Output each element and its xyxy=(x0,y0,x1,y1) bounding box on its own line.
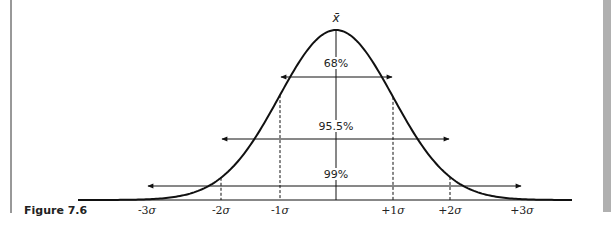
normal-distribution-diagram: 68% 95.5% 99% x̄ -3σ -2σ -1σ +1σ +2σ +3σ… xyxy=(0,0,615,228)
interval-label-68: 68% xyxy=(324,57,348,70)
tick-label-plus-2-sigma: +2σ xyxy=(438,204,462,217)
mean-label: x̄ xyxy=(331,11,340,25)
tick-label-minus-3-sigma: -3σ xyxy=(138,204,157,217)
interval-label-95: 95.5% xyxy=(319,120,354,133)
tick-label-minus-1-sigma: -1σ xyxy=(271,204,290,217)
interval-label-99: 99% xyxy=(324,168,348,181)
tick-label-plus-1-sigma: +1σ xyxy=(381,204,405,217)
figure-caption: Figure 7.6 xyxy=(24,204,88,217)
right-side-bar xyxy=(603,0,611,212)
tick-label-plus-3-sigma: +3σ xyxy=(510,204,534,217)
tick-label-minus-2-sigma: -2σ xyxy=(212,204,231,217)
sigma-dashed-lines xyxy=(147,95,522,200)
